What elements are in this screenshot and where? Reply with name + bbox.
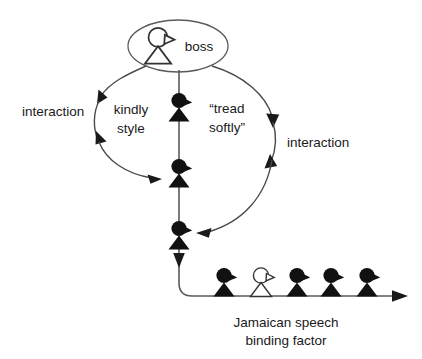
kindly-style-label-line2: style bbox=[117, 121, 145, 136]
kindly-style-label-line1: kindly bbox=[114, 102, 149, 117]
axis-figure-1[interactable] bbox=[214, 268, 238, 297]
chain-figure-1[interactable] bbox=[169, 93, 193, 122]
left-arc-lower-arrow-head-icon bbox=[148, 175, 163, 184]
right-arc-middle bbox=[271, 122, 275, 162]
tread-softly-label-line2: softly” bbox=[209, 120, 245, 135]
axis-label-line1: Jamaican speech bbox=[233, 315, 338, 330]
right-arc-lower-arrow-head-icon bbox=[196, 228, 212, 238]
axis-label-line2: binding factor bbox=[245, 333, 327, 348]
chain-figure-3[interactable] bbox=[169, 221, 193, 250]
left-arc-lower bbox=[99, 142, 152, 178]
vertical-arrow-head-icon bbox=[173, 253, 185, 268]
boss-figure-icon bbox=[145, 28, 175, 64]
axis-figure-2[interactable] bbox=[251, 268, 275, 297]
right-arc-upper-arrow-head-icon bbox=[266, 114, 279, 129]
axis-figure-5[interactable] bbox=[357, 268, 381, 297]
diagram-svg: boss bbox=[0, 0, 422, 359]
axis-figure-3[interactable] bbox=[287, 268, 311, 297]
tread-softly-label-line1: “tread bbox=[209, 101, 244, 116]
axis-figure-4[interactable] bbox=[321, 268, 345, 297]
diagram-canvas: boss bbox=[0, 0, 422, 359]
boss-label: boss bbox=[185, 39, 214, 54]
axis-arrow-head-icon bbox=[392, 290, 408, 302]
left-arc-middle-arrow-head-icon bbox=[96, 131, 107, 145]
interaction-right-label: interaction bbox=[287, 135, 349, 150]
left-arc-upper bbox=[101, 66, 146, 96]
interaction-left-label: interaction bbox=[22, 104, 84, 119]
chain-figure-2[interactable] bbox=[169, 159, 193, 188]
right-arc-lower bbox=[208, 160, 272, 232]
